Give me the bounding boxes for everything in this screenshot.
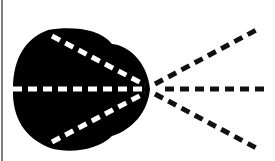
lower-ray-outer <box>155 94 260 150</box>
diagram-canvas <box>0 0 275 161</box>
outer-rays <box>155 28 270 150</box>
lens-ray-diagram <box>0 0 275 161</box>
upper-ray-outer <box>155 28 260 84</box>
